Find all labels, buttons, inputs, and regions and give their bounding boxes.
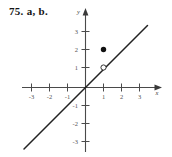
y-axis-label: y xyxy=(76,8,80,15)
y-tick-label-1: 1 xyxy=(75,64,78,71)
coordinate-plane: 3 2 1 -1 -2 -3 -3 -2 -1 1 2 3 y x xyxy=(0,0,172,157)
y-tick-label-neg1: -1 xyxy=(73,102,78,109)
y-tick-label-3: 3 xyxy=(75,28,78,35)
y-axis-arrow-icon xyxy=(83,8,89,16)
open-point-1-1 xyxy=(101,65,106,70)
x-axis-label: x xyxy=(155,89,159,96)
filled-point-1-2 xyxy=(101,47,106,52)
x-tick-label-2: 2 xyxy=(120,93,123,100)
x-tick-label-3: 3 xyxy=(138,93,141,100)
graph-figure: 75. a, b. 3 2 1 -1 -2 -3 -3 -2 -1 xyxy=(0,0,172,157)
x-tick-label-neg1: -1 xyxy=(65,93,70,100)
x-tick-label-neg2: -2 xyxy=(47,93,52,100)
y-tick-label-2: 2 xyxy=(75,46,78,53)
y-tick-label-neg3: -3 xyxy=(73,138,78,145)
x-tick-label-neg3: -3 xyxy=(29,93,34,100)
x-tick-label-1: 1 xyxy=(102,93,105,100)
y-tick-label-neg2: -2 xyxy=(73,120,78,127)
